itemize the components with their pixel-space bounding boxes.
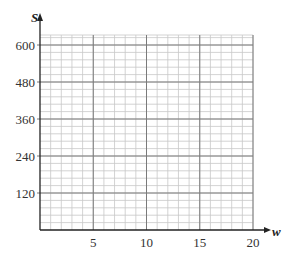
x-tick-label: 5 bbox=[90, 235, 97, 250]
y-tick-label: 120 bbox=[16, 186, 36, 201]
tick-labels: 5101520120240360480600 bbox=[16, 38, 260, 251]
x-tick-label: 15 bbox=[193, 235, 206, 250]
x-axis-arrow-icon bbox=[264, 227, 271, 233]
y-tick-label: 240 bbox=[16, 149, 36, 164]
y-tick-label: 480 bbox=[16, 75, 36, 90]
x-tick-label: 20 bbox=[247, 235, 260, 250]
x-tick-label: 10 bbox=[140, 235, 153, 250]
chart-canvas: 5101520120240360480600 S w bbox=[0, 0, 298, 256]
x-axis-label: w bbox=[272, 224, 281, 239]
y-axis-label: S bbox=[31, 10, 38, 25]
y-tick-label: 600 bbox=[16, 38, 36, 53]
y-tick-label: 360 bbox=[16, 112, 36, 127]
